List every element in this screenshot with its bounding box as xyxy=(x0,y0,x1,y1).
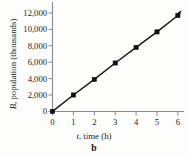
figure-container: 12,000 10,000 8,000 6,000 4,000 2,000 0 … xyxy=(0,0,188,156)
data-point-marker xyxy=(134,45,138,49)
data-point-marker xyxy=(71,93,75,97)
y-axis-ticks xyxy=(49,13,53,111)
x-tick-label: 2 xyxy=(84,118,104,127)
data-point-marker xyxy=(50,109,54,113)
y-axis-variable: B xyxy=(8,104,18,109)
x-axis-ticks xyxy=(53,112,178,116)
x-tick-label: 6 xyxy=(168,118,188,127)
x-tick-label: 4 xyxy=(126,118,146,127)
x-tick-label: 3 xyxy=(105,118,125,127)
y-axis-title-rest: , population (thousands) xyxy=(8,19,18,104)
x-axis-title-rest: , time (h) xyxy=(79,131,112,141)
data-point-marker xyxy=(176,13,180,17)
figure-caption: b xyxy=(0,142,188,153)
y-axis-title: B, population (thousands) xyxy=(8,4,18,124)
data-point-marker xyxy=(155,30,159,34)
x-tick-label: 0 xyxy=(43,118,63,127)
x-tick-label: 1 xyxy=(63,118,83,127)
data-point-marker xyxy=(92,77,96,81)
x-axis-title: t, time (h) xyxy=(0,131,188,141)
data-point-marker xyxy=(113,61,117,65)
x-tick-label: 5 xyxy=(147,118,167,127)
